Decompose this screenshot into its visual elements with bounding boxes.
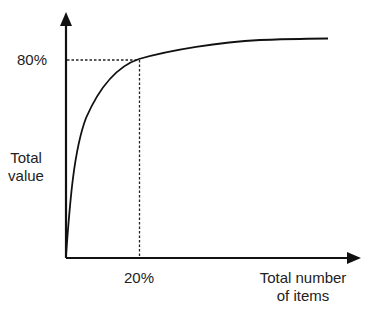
- x-axis-label: Total number of items: [248, 269, 358, 305]
- x-axis-arrow-icon: [347, 252, 361, 264]
- pareto-chart: [0, 0, 365, 309]
- cumulative-curve: [66, 39, 328, 257]
- y-axis-arrow-icon: [60, 12, 72, 26]
- y-axis-label: Total value: [6, 149, 46, 185]
- x-tick-20: 20%: [124, 269, 154, 287]
- x-axis-label-line2: of items: [248, 287, 358, 305]
- y-tick-80: 80%: [17, 51, 47, 69]
- x-axis-label-line1: Total number: [248, 269, 358, 287]
- y-axis-label-line1: Total: [6, 149, 46, 167]
- y-axis-label-line2: value: [6, 167, 46, 185]
